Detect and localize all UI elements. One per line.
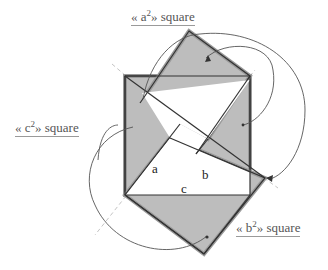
side-a-label: a [152,161,158,176]
c-label-prefix: « c [15,120,31,135]
b-squared-label: « b2» square [236,221,300,237]
side-c-label: c [181,181,187,196]
side-b-label: b [202,167,209,182]
b-label-prefix: « b [236,220,252,235]
c-squared-label: « c2» square [15,121,79,137]
a-squared-label: « a2» square [131,10,195,26]
c-label-suffix: » square [35,120,79,135]
a-label-suffix: » square [151,9,195,24]
b-label-suffix: » square [257,220,301,235]
a-label-prefix: « a [131,9,147,24]
